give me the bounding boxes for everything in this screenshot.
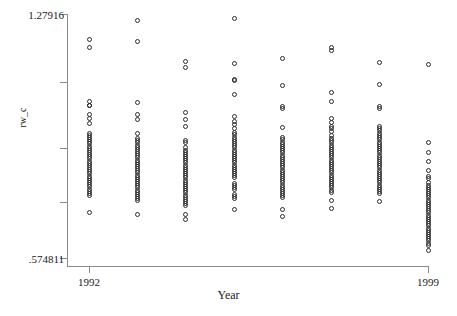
data-point-marker xyxy=(183,150,188,155)
data-point-marker xyxy=(232,78,237,83)
x-axis-label-1992: 1992 xyxy=(78,276,100,288)
data-point-marker xyxy=(426,189,431,194)
data-point-marker xyxy=(87,176,92,181)
data-point-marker xyxy=(183,148,188,153)
data-point-marker xyxy=(183,193,188,198)
data-point-marker xyxy=(87,159,92,164)
data-point-marker xyxy=(135,162,140,167)
data-point-marker xyxy=(135,136,140,141)
data-point-marker xyxy=(232,61,237,66)
data-point-marker xyxy=(377,82,382,87)
data-point-marker xyxy=(135,181,140,186)
data-point-marker xyxy=(377,172,382,177)
data-point-marker xyxy=(135,166,140,171)
data-point-marker xyxy=(183,152,188,157)
data-point-marker xyxy=(426,215,431,220)
data-point-marker xyxy=(329,45,334,50)
data-point-marker xyxy=(183,169,188,174)
data-point-marker xyxy=(329,166,334,171)
data-point-marker xyxy=(280,191,285,196)
data-point-marker xyxy=(87,144,92,149)
data-point-marker xyxy=(377,137,382,142)
data-point-marker xyxy=(232,154,237,159)
data-point-marker xyxy=(135,18,140,23)
data-point-marker xyxy=(377,142,382,147)
data-point-marker xyxy=(135,155,140,160)
data-point-marker xyxy=(329,190,334,195)
data-point-marker xyxy=(426,238,431,243)
data-point-marker xyxy=(232,114,237,119)
data-point-marker xyxy=(377,163,382,168)
data-point-marker xyxy=(87,137,92,142)
data-point-marker xyxy=(183,184,188,189)
data-point-marker xyxy=(426,150,431,155)
data-point-marker xyxy=(426,221,431,226)
y-axis-min-label: .574811 xyxy=(29,253,64,265)
data-point-marker xyxy=(87,152,92,157)
data-point-marker xyxy=(280,214,285,219)
data-point-marker xyxy=(329,179,334,184)
data-point-marker xyxy=(329,48,334,53)
data-point-marker xyxy=(426,198,431,203)
data-point-marker xyxy=(426,200,431,205)
data-point-marker xyxy=(135,149,140,154)
data-point-marker xyxy=(232,175,237,180)
data-point-marker xyxy=(280,146,285,151)
data-point-marker xyxy=(87,165,92,170)
data-point-marker xyxy=(135,185,140,190)
x-axis-title: Year xyxy=(0,288,457,303)
data-point-marker xyxy=(183,186,188,191)
data-point-marker xyxy=(329,129,334,134)
data-point-marker xyxy=(280,195,285,200)
data-point-marker xyxy=(183,140,188,145)
data-point-marker xyxy=(87,146,92,151)
data-point-marker xyxy=(377,148,382,153)
data-point-marker xyxy=(426,219,431,224)
data-point-marker xyxy=(183,190,188,195)
data-point-marker xyxy=(329,160,334,165)
data-point-marker xyxy=(377,150,382,155)
data-point-marker xyxy=(377,155,382,160)
data-point-marker xyxy=(183,65,188,70)
data-point-marker xyxy=(426,230,431,235)
data-point-marker xyxy=(183,182,188,187)
data-point-marker xyxy=(280,174,285,179)
data-point-marker xyxy=(426,204,431,209)
data-point-marker xyxy=(87,133,92,138)
data-point-marker xyxy=(377,187,382,192)
data-point-marker xyxy=(377,191,382,196)
data-point-marker xyxy=(87,103,92,108)
data-point-marker xyxy=(135,175,140,180)
data-point-marker xyxy=(87,169,92,174)
data-point-marker xyxy=(135,147,140,152)
data-point-marker xyxy=(280,125,285,130)
data-point-marker xyxy=(135,179,140,184)
data-point-marker xyxy=(183,212,188,217)
data-point-marker xyxy=(329,198,334,203)
data-point-marker xyxy=(329,168,334,173)
data-point-marker xyxy=(377,170,382,175)
data-point-marker xyxy=(329,124,334,129)
data-point-marker xyxy=(377,176,382,181)
data-point-marker xyxy=(280,144,285,149)
data-point-marker xyxy=(232,126,237,131)
data-point-marker xyxy=(377,133,382,138)
y-axis-title: rw_c xyxy=(17,108,28,128)
data-point-marker xyxy=(377,135,382,140)
data-point-marker xyxy=(426,185,431,190)
data-point-marker xyxy=(232,194,237,199)
data-point-marker xyxy=(232,145,237,150)
data-point-marker xyxy=(135,112,140,117)
data-point-marker xyxy=(426,236,431,241)
data-point-marker xyxy=(135,140,140,145)
data-point-marker xyxy=(377,153,382,158)
data-point-marker xyxy=(87,161,92,166)
data-point-marker xyxy=(280,135,285,140)
data-point-marker xyxy=(135,177,140,182)
data-point-marker xyxy=(183,138,188,143)
data-point-marker xyxy=(87,171,92,176)
data-point-marker xyxy=(329,149,334,154)
data-point-marker xyxy=(377,199,382,204)
data-point-marker xyxy=(183,188,188,193)
data-point-marker xyxy=(87,178,92,183)
